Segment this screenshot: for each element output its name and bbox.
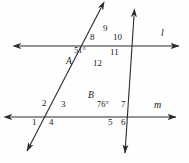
angle-label-9: 9 [103,24,108,33]
angle-label-5: 5 [108,118,113,127]
line-label-m: m [154,100,161,109]
angle-label-12: 12 [93,59,102,68]
angle-label-11: 11 [110,48,119,57]
angle-label-8: 8 [90,33,95,42]
angle-label-2: 2 [42,99,47,108]
angle-measure-lower: 76° [97,100,109,109]
angle-label-10: 10 [113,33,122,42]
angle-label-1: 1 [32,118,37,127]
vertex-label-b: B [88,91,94,100]
transversal-left [27,8,101,151]
transversal-right [125,16,134,153]
angle-label-6: 6 [121,118,126,127]
angle-label-4: 4 [49,118,54,127]
angle-label-3: 3 [61,100,66,109]
angle-measure-upper: 51° [74,46,86,55]
vertex-label-a: A [66,57,72,66]
geometry-figure: l m 8 9 10 51° 11 12 A B 76° 7 2 3 1 4 5… [0,0,189,163]
angle-label-7: 7 [121,100,126,109]
geometry-canvas [0,0,189,163]
line-label-l: l [161,28,164,37]
